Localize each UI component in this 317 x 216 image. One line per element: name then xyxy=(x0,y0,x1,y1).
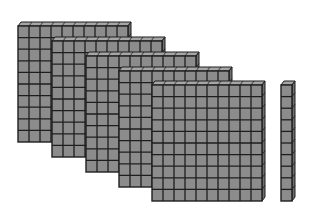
blocks-svg xyxy=(0,0,317,216)
base-ten-blocks-diagram xyxy=(0,0,317,216)
hundreds-flat-5 xyxy=(152,81,265,201)
tens-rod-1 xyxy=(281,81,295,201)
